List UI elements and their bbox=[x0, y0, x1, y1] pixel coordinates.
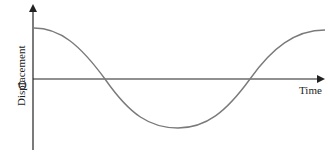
y-axis-label: Displacement bbox=[15, 46, 27, 106]
displacement-time-diagram: O Time Displacement bbox=[0, 0, 329, 152]
x-axis-label: Time bbox=[299, 84, 322, 96]
displacement-curve bbox=[34, 28, 325, 128]
